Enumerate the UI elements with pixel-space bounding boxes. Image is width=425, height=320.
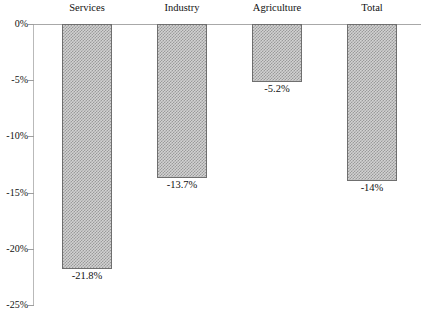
- category-label-agriculture: Agriculture: [227, 2, 327, 14]
- bar-value-agriculture: -5.2%: [227, 83, 327, 95]
- bar-value-industry: -13.7%: [132, 179, 232, 191]
- y-axis-label-minus25: -25%: [2, 300, 28, 310]
- y-tick-minus15: [28, 193, 34, 194]
- bar-industry[interactable]: [157, 24, 207, 178]
- bar-services[interactable]: [62, 24, 112, 269]
- y-tick-minus5: [28, 80, 34, 81]
- y-tick-0: [28, 24, 34, 25]
- y-axis-label-minus15: -15%: [2, 188, 28, 198]
- category-label-services: Services: [37, 2, 137, 14]
- y-tick-minus20: [28, 249, 34, 250]
- y-axis-label-minus20: -20%: [2, 244, 28, 254]
- y-axis-label-minus10: -10%: [2, 131, 28, 141]
- bar-value-services: -21.8%: [37, 270, 137, 282]
- bar-chart: Services Industry Agriculture Total 0% -…: [0, 0, 425, 320]
- bar-agriculture[interactable]: [252, 24, 302, 82]
- bar-total[interactable]: [347, 24, 397, 181]
- y-axis-label-0: 0%: [2, 19, 28, 29]
- category-label-total: Total: [322, 2, 422, 14]
- y-axis-line: [33, 24, 34, 305]
- y-axis-label-minus5: -5%: [2, 75, 28, 85]
- y-tick-minus25: [28, 305, 34, 306]
- y-tick-minus10: [28, 136, 34, 137]
- bar-value-total: -14%: [322, 182, 422, 194]
- category-label-industry: Industry: [132, 2, 232, 14]
